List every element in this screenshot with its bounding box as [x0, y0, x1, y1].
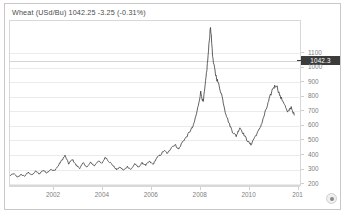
- x-tick-mark: [249, 187, 250, 190]
- y-tick-label: 1100: [308, 49, 322, 56]
- price-line-chart: [10, 21, 300, 186]
- y-tick-mark: [301, 139, 304, 140]
- y-tick-label: 500: [308, 136, 319, 143]
- y-tick-label: 300: [308, 165, 319, 172]
- x-tick-label: 2002: [46, 191, 60, 198]
- y-tick-mark: [301, 110, 304, 111]
- plot-area[interactable]: [9, 20, 300, 186]
- x-tick-mark: [151, 187, 152, 190]
- y-tick-mark: [301, 125, 304, 126]
- x-tick-mark: [102, 187, 103, 190]
- y-tick-mark: [301, 96, 304, 97]
- x-tick-mark: [200, 187, 201, 190]
- y-tick-label: 700: [308, 107, 319, 114]
- price-line-series: [10, 28, 294, 178]
- y-tick-mark: [301, 154, 304, 155]
- y-tick-mark: [301, 67, 304, 68]
- x-tick-mark: [298, 187, 299, 190]
- y-tick-label: 900: [308, 78, 319, 85]
- x-tick-label: 2004: [95, 191, 109, 198]
- x-tick-label: 2006: [144, 191, 158, 198]
- y-tick-label: 800: [308, 92, 319, 99]
- chart-title: Wheat (USd/Bu) 1042.25 -3.25 (-0.31%): [12, 8, 146, 17]
- y-tick-mark: [301, 52, 304, 53]
- y-tick-mark: [301, 183, 304, 184]
- y-tick-mark: [301, 81, 304, 82]
- y-tick-label: 600: [308, 121, 319, 128]
- chart-widget: Wheat (USd/Bu) 1042.25 -3.25 (-0.31%) 10…: [0, 0, 345, 220]
- x-axis: 20022004200620082010201: [9, 186, 341, 206]
- y-tick-label: 400: [308, 151, 319, 158]
- gear-icon[interactable]: [326, 193, 337, 204]
- y-axis: 1042.3 20030040050060070080090010001100: [300, 20, 341, 186]
- y-tick-mark: [301, 169, 304, 170]
- x-tick-label: 2008: [193, 191, 207, 198]
- x-tick-label: 2010: [241, 191, 255, 198]
- current-price-pointer: [297, 60, 301, 61]
- y-axis-spine: [300, 20, 301, 186]
- x-tick-label: 201: [292, 191, 303, 198]
- y-tick-label: 1000: [308, 63, 322, 70]
- x-tick-mark: [53, 187, 54, 190]
